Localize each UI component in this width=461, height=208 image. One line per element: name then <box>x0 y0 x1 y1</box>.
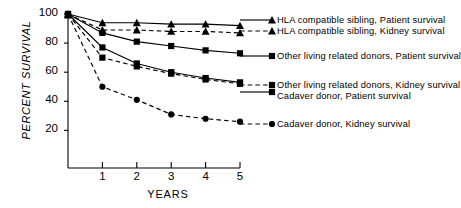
data-point-4-3 <box>168 69 174 75</box>
survival-chart: PERCENT SURVIVAL YEARS 10080604020 12345… <box>0 0 461 208</box>
legend-label-2: Other living related donors, Patient sur… <box>277 51 461 61</box>
x-tick-label: 1 <box>95 170 109 182</box>
y-tick-label: 100 <box>32 6 58 18</box>
x-axis-title: YEARS <box>118 188 218 200</box>
legend-label-3: Other living related donors, Kidney surv… <box>277 80 460 90</box>
legend-marker-2 <box>269 53 275 59</box>
legend-marker-5 <box>269 121 275 127</box>
data-point-2-3 <box>168 43 174 49</box>
legend-label-0: HLA compatible sibling, Patient survival <box>277 15 445 25</box>
y-tick-label: 60 <box>32 64 58 76</box>
data-point-5-4 <box>203 116 209 122</box>
series-layer <box>64 10 244 125</box>
data-point-5-1 <box>99 84 105 90</box>
x-tick-label: 3 <box>164 170 178 182</box>
legend-layer <box>240 16 276 127</box>
data-point-2-1 <box>99 30 105 36</box>
tick-layer <box>64 14 240 168</box>
data-point-4-4 <box>203 75 209 81</box>
axis-layer <box>68 14 240 168</box>
y-tick-label: 80 <box>32 35 58 47</box>
x-tick-label: 2 <box>130 170 144 182</box>
legend-marker-4 <box>269 89 275 95</box>
legend-label-1: HLA compatible sibling, Kidney survival <box>277 26 445 36</box>
data-point-5-2 <box>134 97 140 103</box>
y-tick-label: 40 <box>32 93 58 105</box>
legend-marker-3 <box>269 82 275 88</box>
data-point-1-4 <box>202 27 210 34</box>
data-point-5-3 <box>168 111 174 117</box>
data-point-4-2 <box>134 60 140 66</box>
data-point-4-1 <box>99 44 105 50</box>
legend-label-5: Cadaver donor, Kidney survival <box>277 119 410 129</box>
series-line-0 <box>68 14 240 26</box>
legend-label-4: Cadaver donor, Patient survival <box>277 91 411 101</box>
y-tick-label: 20 <box>32 122 58 134</box>
data-point-2-2 <box>134 39 140 45</box>
data-point-5-0 <box>65 12 71 18</box>
legend-marker-1 <box>268 27 276 34</box>
data-point-2-4 <box>203 47 209 53</box>
y-axis-title: PERCENT SURVIVAL <box>20 10 32 150</box>
data-point-3-1 <box>99 55 105 61</box>
x-tick-label: 5 <box>233 170 247 182</box>
x-tick-label: 4 <box>199 170 213 182</box>
